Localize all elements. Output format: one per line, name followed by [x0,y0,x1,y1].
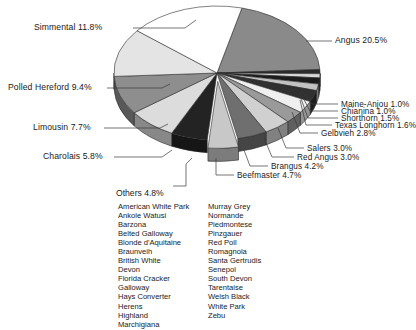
others-breed-item: Marchigiana [118,320,197,329]
label-gelbvieh: Gelbvieh 2.8% [321,129,376,138]
leader-charolais [114,150,172,157]
others-breed-item: Pinzgauer [208,229,286,238]
others-breed-item: Herens [118,302,197,311]
others-breed-item: American White Park [118,202,197,211]
others-breed-item: Braunveih [118,247,197,256]
label-angus: Angus 20.5% [335,36,387,45]
leader-brangus [244,150,268,166]
others-column-left: American White ParkAnkole WatusiBarzonaB… [118,202,197,329]
others-breed-item: British White [118,256,197,265]
label-simmental: Simmental 11.8% [34,23,102,32]
others-breed-item: Santa Gertrudis [208,256,286,265]
others-breed-item: Murray Grey [208,202,286,211]
pie-slice-side [208,147,239,161]
others-breed-item: Tarentaise [208,283,286,292]
others-breed-item: Belted Galloway [118,229,197,238]
others-breed-item: South Devon [208,274,286,283]
others-breed-item: Piedmontese [208,220,286,229]
label-others: Others 4.8% [116,188,164,198]
others-breed-item: Florida Cracker [118,274,197,283]
others-breed-item: Galloway [118,283,197,292]
label-polled-hereford: Polled Hereford 9.4% [8,83,92,92]
label-charolais: Charolais 5.8% [43,152,103,161]
label-limousin: Limousin 7.7% [33,123,91,132]
pie-slices-group [114,6,320,161]
others-breed-item: Hays Converter [118,292,197,301]
label-red-angus: Red Angus 3.0% [297,153,359,162]
others-breed-item: Ankole Watusi [118,211,197,220]
others-breed-item: Devon [118,265,197,274]
others-breed-item: Highland [118,311,197,320]
others-breed-item: Zebu [208,311,286,320]
others-column-right: Murray GreyNormandePiedmontesePinzgauerR… [208,202,286,329]
others-breed-item: Normande [208,211,286,220]
label-salers: Salers 3.0% [307,144,352,153]
label-brangus: Brangus 4.2% [271,162,324,171]
others-breed-item: Senepol [208,265,286,274]
others-breed-item: Romagnola [208,247,286,256]
others-breed-item: White Park [208,302,286,311]
label-beefmaster: Beefmaster 4.7% [237,171,301,180]
leader-others [173,158,192,186]
others-breed-item: Blonde d'Aquitaine [118,238,197,247]
others-breed-item: Welsh Black [208,292,286,301]
others-breed-lists: American White ParkAnkole WatusiBarzonaB… [118,202,286,329]
others-breed-item: Red Poll [208,238,286,247]
others-breed-item: Barzona [118,220,197,229]
